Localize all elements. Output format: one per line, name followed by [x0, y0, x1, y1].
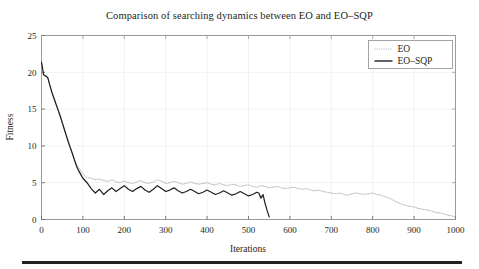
x-tick-label: 1000: [447, 225, 466, 235]
x-tick-label: 300: [159, 225, 173, 235]
chart-plot: 01002003004005006007008009001000 0510152…: [0, 0, 479, 269]
x-tick-label: 600: [283, 225, 297, 235]
legend-label-eosqp: EO–SQP: [398, 56, 433, 66]
x-axis-tick-labels: 01002003004005006007008009001000: [39, 225, 465, 235]
y-axis-tick-labels: 0510152025: [28, 31, 38, 225]
y-tick-label: 20: [28, 68, 38, 78]
x-tick-label: 900: [407, 225, 421, 235]
x-tick-label: 800: [366, 225, 380, 235]
legend-label-eo: EO: [398, 44, 411, 54]
x-tick-label: 700: [325, 225, 339, 235]
y-tick-label: 25: [28, 31, 38, 41]
x-tick-label: 500: [242, 225, 256, 235]
y-tick-label: 15: [28, 104, 38, 114]
chart-legend: EOEO–SQP: [369, 41, 453, 69]
series-line-eosqp: [42, 62, 270, 217]
y-tick-label: 5: [32, 178, 37, 188]
x-tick-label: 200: [118, 225, 132, 235]
y-axis-label: Fitness: [5, 113, 15, 140]
x-axis-label: Iterations: [230, 244, 266, 254]
figure-container: Comparison of searching dynamics between…: [0, 0, 479, 269]
bottom-divider-rule: [22, 261, 462, 264]
y-tick-label: 0: [32, 215, 37, 225]
x-tick-label: 0: [39, 225, 44, 235]
y-tick-label: 10: [28, 141, 38, 151]
x-tick-label: 400: [200, 225, 214, 235]
x-tick-label: 100: [76, 225, 90, 235]
